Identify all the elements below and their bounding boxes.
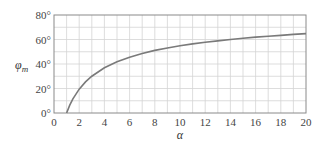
x-axis-ticks: 02468101214161820 bbox=[51, 116, 312, 128]
y-axis-ticks: 0°20°40°60°80° bbox=[36, 9, 51, 119]
x-axis-label: α bbox=[177, 128, 184, 142]
y-axis-label-sub: m bbox=[22, 64, 29, 74]
x-tick-label: 0 bbox=[51, 116, 57, 128]
x-tick-label: 4 bbox=[102, 116, 108, 128]
x-tick-label: 18 bbox=[275, 116, 287, 128]
grid bbox=[54, 15, 306, 113]
x-tick-label: 16 bbox=[250, 116, 262, 128]
y-tick-label: 20° bbox=[36, 83, 51, 95]
x-tick-label: 20 bbox=[301, 116, 313, 128]
x-tick-label: 6 bbox=[127, 116, 133, 128]
chart: 02468101214161820 0°20°40°60°80° α φm bbox=[0, 0, 327, 146]
y-tick-label: 60° bbox=[36, 34, 51, 46]
x-tick-label: 12 bbox=[200, 116, 211, 128]
x-tick-label: 2 bbox=[76, 116, 82, 128]
y-tick-label: 80° bbox=[36, 9, 51, 21]
x-tick-label: 8 bbox=[152, 116, 158, 128]
y-tick-label: 40° bbox=[36, 58, 51, 70]
x-tick-label: 10 bbox=[175, 116, 187, 128]
y-axis-label: φm bbox=[15, 58, 29, 74]
y-tick-label: 0° bbox=[41, 107, 51, 119]
x-tick-label: 14 bbox=[225, 116, 237, 128]
